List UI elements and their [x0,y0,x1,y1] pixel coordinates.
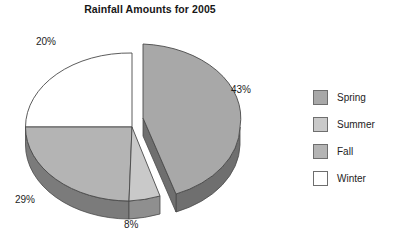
spring-value-label: 43% [231,84,251,95]
legend-label-spring: Spring [337,92,366,103]
winter-slice-top [25,53,132,127]
legend-label-summer: Summer [337,119,375,130]
summer-value-label: 8% [124,219,138,230]
pie-chart-figure: Rainfall Amounts for 2005 43% 8% [0,0,396,246]
fall-slice-top [26,127,133,201]
legend-item-winter: Winter [313,165,393,192]
legend-swatch-summer [313,117,328,132]
legend-item-spring: Spring [313,84,393,111]
legend-swatch-fall [313,144,328,159]
legend-label-fall: Fall [337,146,353,157]
legend-swatch-spring [313,90,328,105]
legend-swatch-winter [313,171,328,186]
fall-value-label: 29% [15,194,35,205]
legend-label-winter: Winter [337,173,366,184]
pie-plot-area: 43% 8% 29% 20% [0,0,300,246]
winter-value-label: 20% [36,36,56,47]
legend-item-summer: Summer [313,111,393,138]
chart-legend: Spring Summer Fall Winter [313,84,393,192]
legend-item-fall: Fall [313,138,393,165]
